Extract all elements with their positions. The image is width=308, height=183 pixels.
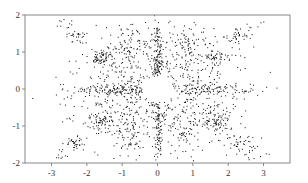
data-point: [112, 90, 113, 91]
data-point: [139, 40, 140, 41]
data-point: [218, 125, 219, 126]
data-point: [156, 59, 157, 60]
data-point: [77, 136, 78, 137]
data-point: [226, 84, 227, 85]
data-point: [69, 118, 70, 119]
data-point: [168, 108, 169, 109]
data-point: [136, 111, 137, 112]
data-point: [155, 71, 156, 72]
data-point: [137, 143, 138, 144]
data-point: [130, 139, 131, 140]
data-point: [129, 108, 130, 109]
data-point: [214, 102, 215, 103]
data-point: [156, 126, 157, 127]
data-point: [248, 157, 249, 158]
data-point: [184, 90, 185, 91]
data-point: [225, 114, 226, 115]
data-point: [177, 98, 178, 99]
data-point: [183, 47, 184, 48]
data-point: [227, 111, 228, 112]
data-point: [226, 155, 227, 156]
data-point: [63, 84, 64, 85]
data-point: [96, 117, 97, 118]
data-point: [189, 95, 190, 96]
data-point: [136, 53, 137, 54]
data-point: [250, 38, 251, 39]
data-point: [186, 142, 187, 143]
data-point: [127, 106, 128, 107]
data-point: [85, 96, 86, 97]
data-point: [131, 39, 132, 40]
data-point: [70, 141, 71, 142]
data-point: [191, 129, 192, 130]
data-point: [72, 121, 73, 122]
data-point: [159, 121, 160, 122]
data-point: [205, 122, 206, 123]
data-point: [232, 55, 233, 56]
data-point: [145, 47, 146, 48]
data-point: [139, 80, 140, 81]
data-point: [74, 143, 75, 144]
data-point: [169, 125, 170, 126]
data-point: [128, 137, 129, 138]
data-point: [183, 128, 184, 129]
data-point: [174, 124, 175, 125]
data-point: [151, 102, 152, 103]
data-point: [173, 126, 174, 127]
data-point: [154, 138, 155, 139]
data-point: [195, 93, 196, 94]
data-point: [153, 102, 154, 103]
data-point: [182, 47, 183, 48]
data-point: [97, 86, 98, 87]
data-point: [146, 109, 147, 110]
data-point: [108, 56, 109, 57]
data-point: [158, 43, 159, 44]
data-point: [70, 119, 71, 120]
data-point: [198, 81, 199, 82]
data-point: [128, 144, 129, 145]
data-point: [200, 55, 201, 56]
x-tick-label: -3: [48, 168, 56, 178]
data-point: [186, 99, 187, 100]
data-point: [184, 42, 185, 43]
data-point: [94, 128, 95, 129]
data-point: [107, 100, 108, 101]
data-point: [83, 36, 84, 37]
data-point: [104, 90, 105, 91]
data-point: [155, 73, 156, 74]
data-point: [249, 141, 250, 142]
data-point: [168, 22, 169, 23]
data-point: [108, 94, 109, 95]
data-point: [117, 125, 118, 126]
data-point: [161, 46, 162, 47]
data-point: [244, 39, 245, 40]
data-point: [105, 124, 106, 125]
data-point: [86, 88, 87, 89]
data-point: [71, 35, 72, 36]
data-point: [195, 24, 196, 25]
data-point: [156, 72, 157, 73]
data-point: [203, 39, 204, 40]
data-point: [153, 112, 154, 113]
data-point: [177, 120, 178, 121]
data-point: [184, 135, 185, 136]
data-point: [232, 94, 233, 95]
data-point: [161, 113, 162, 114]
data-point: [157, 28, 158, 29]
data-point: [134, 135, 135, 136]
data-point: [202, 126, 203, 127]
data-point: [133, 33, 134, 34]
data-point: [128, 44, 129, 45]
data-point: [158, 61, 159, 62]
data-point: [206, 88, 207, 89]
data-point: [237, 67, 238, 68]
data-point: [141, 118, 142, 119]
data-point: [58, 155, 59, 156]
data-point: [186, 128, 187, 129]
data-point: [100, 78, 101, 79]
data-point: [222, 119, 223, 120]
data-point: [82, 144, 83, 145]
data-point: [188, 45, 189, 46]
data-point: [173, 68, 174, 69]
data-point: [183, 107, 184, 108]
